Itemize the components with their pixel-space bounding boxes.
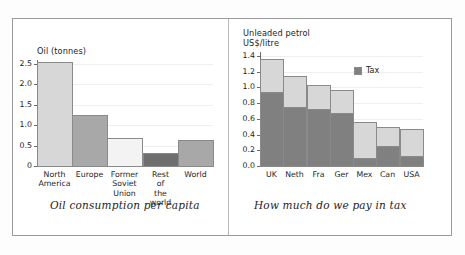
- y-axis-tick-label: 1.4: [239, 51, 255, 60]
- y-axis-tick-label: 0.5: [16, 141, 32, 150]
- y-axis-tick-label: 0: [16, 161, 32, 170]
- bar-segment: [353, 158, 377, 167]
- y-axis-tick: [257, 56, 260, 57]
- bar: [107, 138, 143, 167]
- left-axis-title: Oil (tonnes): [37, 46, 86, 56]
- y-axis-tick-label: 0.8: [239, 98, 255, 107]
- bar-segment: [260, 92, 284, 167]
- right-axis-title-line2: US$/litre: [243, 38, 279, 48]
- left-plot-area: 00.51.01.52.02.5North AmericaEuropeForme…: [37, 60, 213, 166]
- chart-panel-oil-consumption: Oil (tonnes) 00.51.01.52.02.5North Ameri…: [12, 18, 228, 236]
- y-axis-tick-label: 1.0: [16, 120, 32, 129]
- x-axis-category-label: World: [170, 170, 221, 179]
- y-axis-tick-label: 0.2: [239, 145, 255, 154]
- y-axis-tick-label: 1.2: [239, 67, 255, 76]
- gridline: [260, 72, 423, 73]
- bar-segment: [330, 113, 354, 167]
- bar-segment: [307, 85, 331, 110]
- bar: [37, 62, 73, 167]
- bar-segment: [283, 76, 307, 108]
- bar-segment: [353, 122, 377, 159]
- y-axis-tick-label: 1.0: [239, 82, 255, 91]
- y-axis-tick-label: 0.0: [239, 161, 255, 170]
- legend-swatch-tax: [354, 67, 362, 75]
- bar-segment: [283, 107, 307, 167]
- stacked-bar: [260, 59, 284, 167]
- left-caption: Oil consumption per capita: [50, 199, 200, 211]
- right-caption: How much do we pay in tax: [254, 199, 407, 211]
- stacked-bar: [376, 127, 400, 167]
- legend-tax: Tax: [354, 66, 379, 75]
- bar-segment: [400, 129, 424, 157]
- y-axis-tick-label: 0.6: [239, 114, 255, 123]
- bar-segment: [376, 127, 400, 147]
- y-axis-tick-label: 2.5: [16, 59, 32, 68]
- x-axis-category-label: USA: [392, 170, 431, 179]
- y-axis-tick-label: 1.5: [16, 100, 32, 109]
- legend-label-tax: Tax: [366, 66, 379, 75]
- bar-segment: [307, 109, 331, 167]
- y-axis-tick-label: 0.4: [239, 130, 255, 139]
- bar-segment: [400, 156, 424, 167]
- bar: [178, 140, 214, 167]
- bar: [143, 153, 179, 167]
- stacked-bar: [400, 129, 424, 167]
- bar: [72, 115, 108, 167]
- stacked-bar: [330, 91, 354, 167]
- stacked-bar: [307, 85, 331, 167]
- bar-segment: [330, 90, 354, 114]
- stacked-bar: [283, 76, 307, 167]
- stacked-bar: [353, 122, 377, 167]
- bar-segment: [376, 146, 400, 167]
- figure-root: Oil (tonnes) 00.51.01.52.02.5North Ameri…: [0, 0, 465, 255]
- chart-panel-petrol-tax: Unleaded petrol US$/litre 0.00.20.40.60.…: [229, 18, 452, 236]
- y-axis-tick-label: 2.0: [16, 79, 32, 88]
- right-plot-area: 0.00.20.40.60.81.01.21.4UKNethFraGerMexC…: [260, 52, 423, 166]
- gridline: [260, 56, 423, 57]
- bar-segment: [260, 59, 284, 93]
- right-axis-title-line1: Unleaded petrol: [243, 28, 310, 38]
